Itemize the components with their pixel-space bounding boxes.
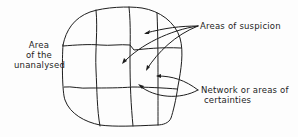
label-network-certainties: Network or areas of certainties: [201, 85, 289, 105]
label-area-unanalysed: Area of the unanalysed: [14, 40, 64, 70]
label-certainties-line1: Network or areas of: [201, 85, 289, 95]
label-unanalysed-line1: Area: [14, 40, 64, 50]
grid-vertical-1: [96, 10, 100, 126]
diagram-canvas: Area of the unanalysed Areas of suspicio…: [0, 0, 298, 137]
grid-vertical-2: [129, 7, 133, 126]
arrowhead-suspicion-1: [144, 30, 150, 34]
arrowhead-suspicion-2: [122, 58, 127, 64]
knowledge-blob-outline: [62, 7, 182, 126]
grid-horizontal-2: [64, 87, 177, 89]
label-areas-of-suspicion: Areas of suspicion: [200, 21, 281, 31]
label-certainties-line2: certainties: [201, 95, 289, 105]
label-unanalysed-line3: unanalysed: [14, 60, 64, 70]
label-unanalysed-line2: of the: [14, 50, 64, 60]
arrowhead-certainties-1: [156, 74, 161, 78]
